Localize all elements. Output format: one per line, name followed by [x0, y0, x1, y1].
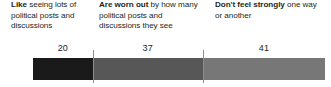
value-label-worn-out: 37: [128, 42, 168, 55]
bar-segment-like: [33, 58, 93, 80]
category-header-worn-out-lead: Are worn out: [99, 0, 148, 9]
bar-segment-dont-feel-strongly: [203, 58, 325, 80]
value-labels: 20 37 41: [0, 42, 331, 57]
category-header-dont-feel-strongly: Don't feel strongly one way or another: [215, 0, 325, 21]
segment-divider-2: [203, 50, 204, 83]
bar-segment-worn-out: [93, 58, 203, 80]
value-label-like: 20: [43, 42, 83, 55]
bar-track: [33, 58, 325, 80]
value-label-dont-feel-strongly: 41: [244, 42, 284, 55]
category-header-worn-out: Are worn out by how many political posts…: [99, 0, 200, 32]
stacked-bar-chart: Like seeing lots of political posts and …: [0, 0, 331, 87]
category-headers: Like seeing lots of political posts and …: [0, 0, 331, 42]
category-header-like: Like seeing lots of political posts and …: [11, 0, 91, 32]
category-header-dont-feel-strongly-lead: Don't feel strongly: [215, 0, 285, 9]
segment-divider-1: [93, 50, 94, 83]
category-header-like-lead: Like: [11, 0, 27, 9]
